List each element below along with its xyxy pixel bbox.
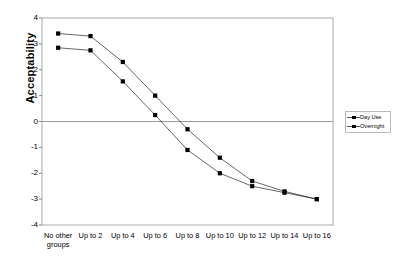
legend-item-day-use: Day Use — [347, 113, 389, 122]
data-point-marker — [88, 34, 92, 38]
data-point-marker — [153, 113, 157, 117]
data-point-marker — [218, 171, 222, 175]
data-point-marker — [250, 179, 254, 183]
chart-figure: Acceptability 43210-1-2-3-4 No other gro… — [0, 0, 393, 261]
plot-area — [0, 0, 393, 261]
legend-label: Overnight — [360, 123, 384, 130]
data-point-marker — [185, 148, 189, 152]
data-point-marker — [88, 48, 92, 52]
data-point-marker — [56, 46, 60, 50]
data-point-marker — [121, 79, 125, 83]
data-point-marker — [250, 184, 254, 188]
series-line — [58, 48, 317, 199]
data-point-marker — [185, 127, 189, 131]
legend: Day Use Overnight — [345, 111, 391, 133]
data-point-marker — [153, 94, 157, 98]
data-point-marker — [315, 197, 319, 201]
data-point-marker — [218, 156, 222, 160]
series-line — [58, 34, 317, 200]
legend-item-overnight: Overnight — [347, 122, 389, 131]
legend-marker-icon — [347, 122, 360, 131]
data-point-marker — [282, 191, 286, 195]
legend-marker-icon — [347, 113, 360, 122]
data-point-marker — [121, 60, 125, 64]
legend-label: Day Use — [360, 114, 381, 121]
data-point-marker — [56, 31, 60, 35]
